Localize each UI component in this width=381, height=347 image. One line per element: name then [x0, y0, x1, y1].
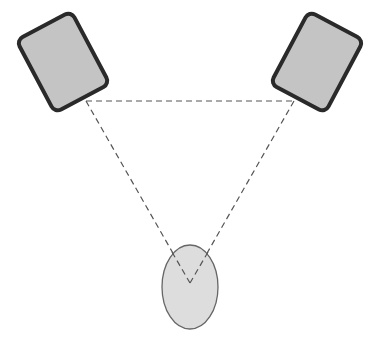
listener-head-icon	[162, 245, 218, 329]
stereo-triangle-diagram	[0, 0, 381, 347]
right-speaker-icon	[270, 11, 363, 113]
left-speaker-icon	[16, 11, 109, 113]
